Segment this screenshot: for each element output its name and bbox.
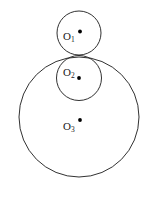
center-dot-o2	[77, 76, 81, 80]
center-label-o1-subscript: 1	[71, 35, 75, 44]
center-label-o1: O1	[63, 31, 75, 42]
center-label-o2-subscript: 2	[71, 71, 75, 80]
center-label-o3-subscript: 3	[71, 125, 75, 134]
center-label-o3-text: O	[63, 120, 71, 132]
center-label-o1-text: O	[63, 30, 71, 42]
center-label-o2: O2	[63, 67, 75, 78]
center-label-o3: O3	[63, 121, 75, 132]
circles-diagram	[0, 0, 152, 201]
center-dot-o3	[78, 118, 82, 122]
circle-outline-o3	[19, 57, 139, 177]
figure-canvas: O1 O2 O3	[0, 0, 152, 201]
center-dot-o1	[78, 30, 82, 34]
center-label-o2-text: O	[63, 66, 71, 78]
